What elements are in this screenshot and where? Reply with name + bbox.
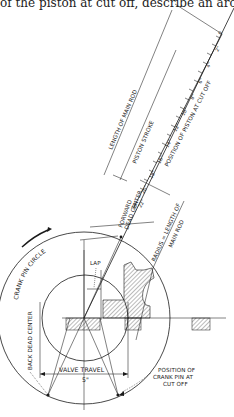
crank-pin-cutoff-label-1: POSITION OF [158, 367, 195, 373]
bottom-cross-line-1 [113, 175, 127, 181]
svg-text:2": 2" [214, 45, 221, 52]
valve-seat-hatching [66, 318, 210, 330]
crank-pin-cutoff-label-3: CUT OFF [163, 381, 188, 387]
back-dead-center-label: BACK DEAD CENTER [27, 311, 33, 370]
valve-setting-diagram: 0 2" 4" 6" 8" 10" 12" 14" 16" 18" 20" 22… [0, 0, 234, 417]
valve-travel-value: 5" [82, 376, 89, 383]
length-of-main-rod-label: LENGTH OF MAIN ROD [107, 89, 138, 151]
svg-text:10": 10" [180, 107, 188, 117]
forward-dead-center-line [80, 236, 118, 240]
rotation-arrow-icon [22, 230, 48, 247]
piston-stroke-scale [134, 34, 222, 207]
svg-text:14": 14" [164, 139, 172, 149]
svg-text:4": 4" [205, 61, 212, 68]
scale-tick-labels: 0 2" 4" 6" 8" 10" 12" 14" 16" 18" 20" 22… [130, 30, 223, 210]
svg-text:8": 8" [189, 93, 196, 100]
crank-pin-cutoff-arrow-icon [119, 391, 124, 396]
position-of-piston-label: POSITION OF PISTON AT CUT OFF [164, 79, 213, 167]
crank-pin-cutoff-label-2: CRANK PIN AT [153, 374, 193, 380]
top-cross-line [175, 4, 222, 34]
valve-body [103, 262, 154, 318]
valve-travel-label: VALVE TRAVEL [59, 366, 105, 373]
svg-text:6": 6" [197, 77, 204, 84]
svg-text:12": 12" [172, 123, 180, 133]
crank-pin-left-marker [46, 393, 49, 396]
rotation-arrowhead-icon [47, 227, 52, 232]
crank-pin-circle-label: CRANK PIN CIRCLE [12, 247, 47, 300]
lap-label: LAP [90, 260, 101, 266]
